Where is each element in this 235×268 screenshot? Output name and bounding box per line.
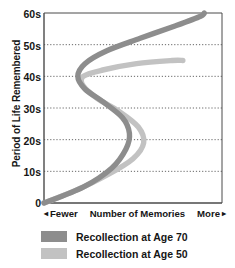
x-axis-left-label: Fewer xyxy=(50,208,78,219)
memory-recollection-chart: Period of Life Remembered 60s 50s 40s 30… xyxy=(0,0,235,268)
legend-item: Recollection at Age 70 xyxy=(41,228,231,245)
legend-item: Recollection at Age 50 xyxy=(41,245,231,262)
legend-swatch-age-70 xyxy=(41,231,67,242)
legend-swatch-age-50 xyxy=(41,248,67,259)
legend: Recollection at Age 70 Recollection at A… xyxy=(41,228,231,262)
series-line xyxy=(44,60,183,203)
x-axis-right: More ▸ xyxy=(197,208,226,219)
x-axis-label-row: ◂ Fewer Number of Memories More ▸ xyxy=(44,205,226,221)
x-axis-left: ◂ Fewer xyxy=(44,208,78,219)
arrow-right-icon: ▸ xyxy=(222,209,226,218)
series-lines xyxy=(44,13,204,203)
series-line xyxy=(44,13,204,203)
legend-label-age-50: Recollection at Age 50 xyxy=(76,248,188,260)
x-axis-title: Number of Memories xyxy=(90,208,185,219)
x-axis-right-label: More xyxy=(197,208,220,219)
legend-label-age-70: Recollection at Age 70 xyxy=(76,231,188,243)
arrow-left-icon: ◂ xyxy=(44,209,48,218)
